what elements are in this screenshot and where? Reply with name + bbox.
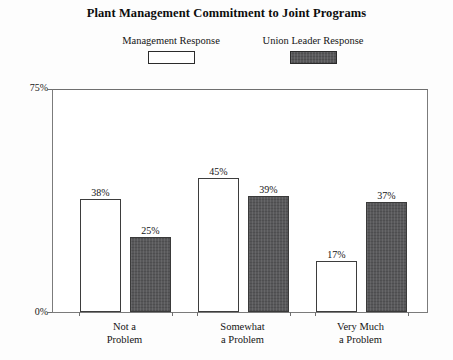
x-axis-tick-2-2	[290, 312, 291, 316]
legend-swatch-union-leader-response	[290, 51, 337, 64]
chart-title: Plant Management Commitment to Joint Pro…	[0, 6, 453, 21]
x-axis-category-label-3: Very Mucha Problem	[301, 321, 421, 346]
bar-value-label-union-leader-response-3: 37%	[377, 190, 395, 201]
bar-management-response-2: 45%	[198, 178, 239, 312]
bar-value-label-union-leader-response-2: 39%	[259, 184, 277, 195]
bar-value-label-management-response-3: 17%	[327, 249, 345, 260]
legend-entry-management-response: Management Response	[96, 34, 246, 64]
x-axis-category-label-1-line-2: Problem	[65, 334, 185, 347]
y-axis-tick-label-bottom: 0%	[22, 306, 48, 317]
legend-label-management-response: Management Response	[96, 34, 246, 47]
bar-value-label-union-leader-response-1: 25%	[141, 225, 159, 236]
x-axis-category-label-1: Not aProblem	[65, 321, 185, 346]
legend-entry-union-leader-response: Union Leader Response	[238, 34, 388, 64]
x-axis-tick-3-2	[408, 312, 409, 316]
x-axis-tick-2-1	[197, 312, 198, 316]
bar-value-label-management-response-1: 38%	[91, 187, 109, 198]
x-axis-tick-1-2	[172, 312, 173, 316]
bar-management-response-3: 17%	[316, 261, 357, 312]
x-axis-category-label-2-line-2: a Problem	[183, 334, 303, 347]
x-axis-tick-1-1	[79, 312, 80, 316]
x-axis-category-label-2-line-1: Somewhat	[183, 321, 303, 334]
bar-union-leader-response-2: 39%	[248, 196, 289, 312]
legend-label-union-leader-response: Union Leader Response	[238, 34, 388, 47]
x-axis-category-label-3-line-2: a Problem	[301, 334, 421, 347]
chart-legend: Management Response Union Leader Respons…	[0, 34, 453, 74]
bar-value-label-management-response-2: 45%	[209, 166, 227, 177]
x-axis-category-label-3-line-1: Very Much	[301, 321, 421, 334]
plot-area: 38%25%45%39%17%37%	[52, 89, 428, 313]
legend-swatch-management-response	[148, 51, 195, 64]
bar-management-response-1: 38%	[80, 199, 121, 312]
x-axis-category-label-1-line-1: Not a	[65, 321, 185, 334]
x-axis-tick-3-1	[315, 312, 316, 316]
bar-chart: Plant Management Commitment to Joint Pro…	[0, 0, 453, 360]
y-axis-tick-label-top: 75%	[22, 82, 48, 93]
bar-union-leader-response-3: 37%	[366, 202, 407, 313]
bar-union-leader-response-1: 25%	[130, 237, 171, 312]
x-axis-category-label-2: Somewhata Problem	[183, 321, 303, 346]
